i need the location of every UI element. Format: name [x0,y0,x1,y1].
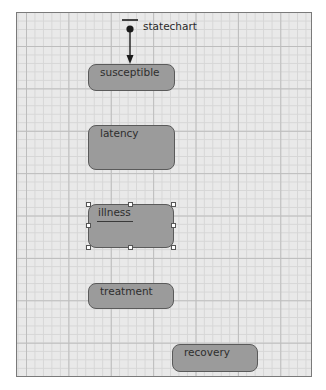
text-edit-underline [97,221,133,222]
state-label: treatment [100,285,153,297]
state-label: susceptible [100,66,160,78]
state-latency[interactable]: latency [88,125,175,170]
state-recovery[interactable]: recovery [172,344,258,372]
resize-handle-top-right[interactable] [171,202,176,207]
resize-handle-bottom[interactable] [128,245,133,250]
state-label-editing[interactable]: illness [98,206,131,218]
resize-handle-top-left[interactable] [86,202,91,207]
resize-handle-bottom-right[interactable] [171,245,176,250]
state-label: latency [100,127,139,139]
state-treatment[interactable]: treatment [88,283,174,309]
state-susceptible[interactable]: susceptible [88,64,175,91]
state-label: recovery [184,346,230,358]
resize-handle-bottom-left[interactable] [86,245,91,250]
state-illness[interactable]: illness [88,204,174,248]
resize-handle-top[interactable] [128,202,133,207]
resize-handle-right[interactable] [171,223,176,228]
statechart-entry-label: statechart [143,20,197,32]
resize-handle-left[interactable] [86,223,91,228]
